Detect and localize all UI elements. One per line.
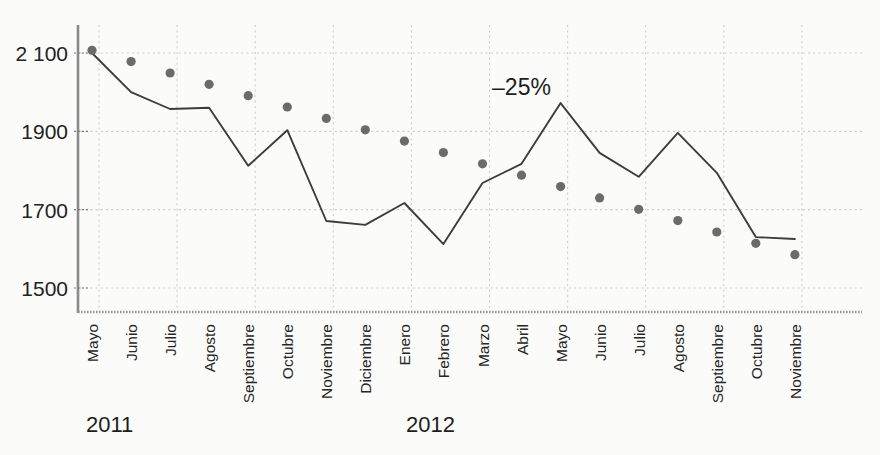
- year-label-2011: 2011: [86, 412, 133, 437]
- y-tick-label: 1500: [21, 277, 68, 300]
- trend-dot: [751, 239, 760, 248]
- x-tick-label: Septiembre: [240, 324, 257, 403]
- x-tick-label: Diciembre: [357, 324, 374, 394]
- line-chart: 1500170019002 100 –25% MayoJunioJulioAgo…: [0, 0, 880, 455]
- trend-dot: [478, 159, 487, 168]
- x-tick-label: Mayo: [84, 324, 101, 362]
- x-tick-label: Septiembre: [709, 324, 726, 403]
- trend-dot: [205, 80, 214, 89]
- decline-annotation: –25%: [492, 74, 551, 100]
- trend-dot: [712, 227, 721, 236]
- trend-dot: [556, 182, 565, 191]
- x-tick-label: Julio: [162, 324, 179, 356]
- trend-dot: [322, 114, 331, 123]
- x-tick-label: Noviembre: [318, 324, 335, 399]
- x-tick-label: Febrero: [435, 324, 452, 378]
- x-tick-label: Julio: [631, 324, 648, 356]
- x-tick-label: Octubre: [279, 324, 296, 379]
- y-tick-label: 1700: [21, 199, 68, 222]
- x-tick-label: Junio: [123, 324, 140, 361]
- x-tick-label: Mayo: [553, 324, 570, 362]
- x-tick-label: Octubre: [748, 324, 765, 379]
- trend-dot: [166, 68, 175, 77]
- trend-dot: [439, 148, 448, 157]
- y-tick-label: 1900: [21, 120, 68, 143]
- chart-container: 1500170019002 100 –25% MayoJunioJulioAgo…: [0, 0, 880, 455]
- x-tick-label: Marzo: [475, 324, 492, 367]
- chart-background: [0, 0, 880, 455]
- year-label-2012: 2012: [406, 412, 455, 437]
- x-tick-label: Junio: [592, 324, 609, 361]
- y-tick-label: 2 100: [15, 42, 68, 65]
- x-tick-label: Noviembre: [787, 324, 804, 399]
- trend-dot: [283, 102, 292, 111]
- trend-dot: [244, 91, 253, 100]
- x-tick-label: Agosto: [670, 324, 687, 372]
- trend-dot: [87, 46, 96, 55]
- trend-dot: [790, 250, 799, 259]
- x-tick-label: Agosto: [201, 324, 218, 372]
- trend-dot: [634, 205, 643, 214]
- trend-dot: [595, 193, 604, 202]
- x-tick-label: Enero: [396, 324, 413, 365]
- trend-dot: [127, 57, 136, 66]
- trend-dot: [673, 216, 682, 225]
- trend-dot: [361, 125, 370, 134]
- x-tick-label: Abril: [514, 324, 531, 355]
- trend-dot: [517, 171, 526, 180]
- trend-dot: [400, 137, 409, 146]
